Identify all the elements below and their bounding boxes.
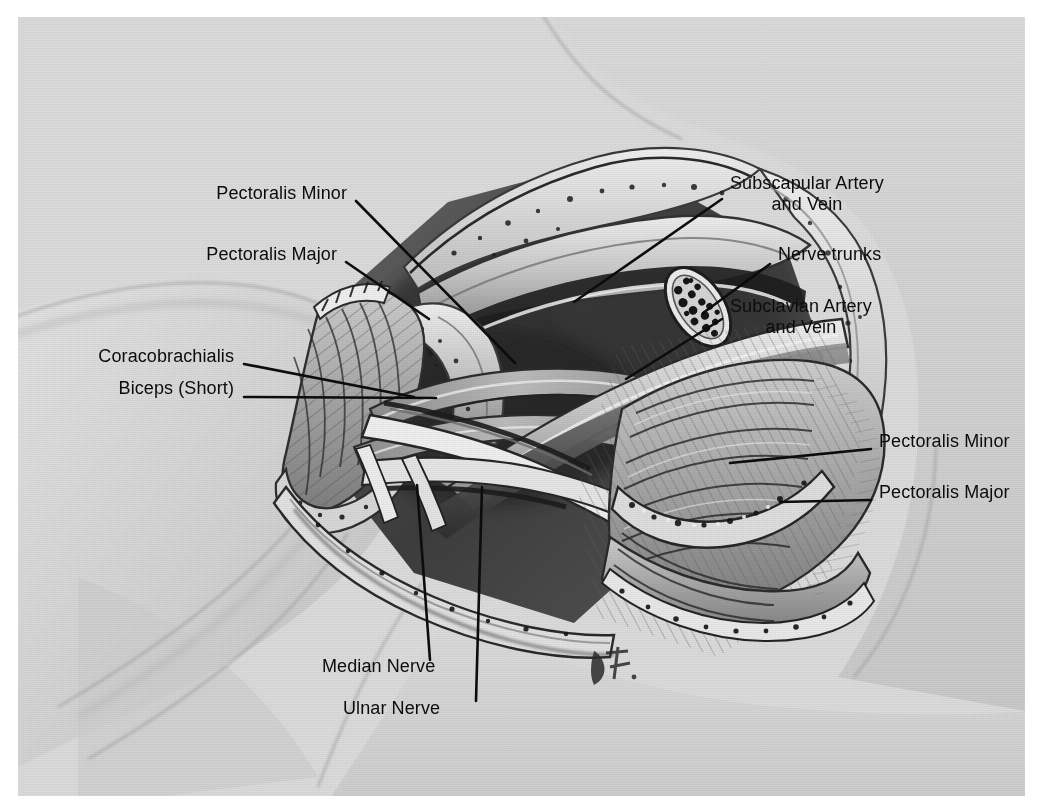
label-subclavian-artery-and-vein: Subclavian Artery and Vein (730, 296, 872, 338)
label-pectoralis-minor-right: Pectoralis Minor (879, 431, 1010, 452)
label-nerve-trunks: Nerve trunks (778, 244, 881, 265)
label-biceps-short: Biceps (Short) (119, 378, 234, 399)
label-median-nerve: Median Nerve (322, 656, 435, 677)
label-pectoralis-major-left: Pectoralis Major (206, 244, 337, 265)
anatomy-artwork (18, 17, 1025, 796)
label-pectoralis-minor-left: Pectoralis Minor (216, 183, 347, 204)
illustration-plate: Pectoralis Minor Pectoralis Major Coraco… (0, 0, 1039, 812)
leader-biceps-short (244, 397, 436, 398)
label-pectoralis-major-right: Pectoralis Major (879, 482, 1010, 503)
printed-paper-area: Pectoralis Minor Pectoralis Major Coraco… (18, 17, 1025, 796)
label-coracobrachialis: Coracobrachialis (98, 346, 234, 367)
label-ulnar-nerve: Ulnar Nerve (343, 698, 440, 719)
label-subscapular-artery-and-vein: Subscapular Artery and Vein (730, 173, 884, 215)
